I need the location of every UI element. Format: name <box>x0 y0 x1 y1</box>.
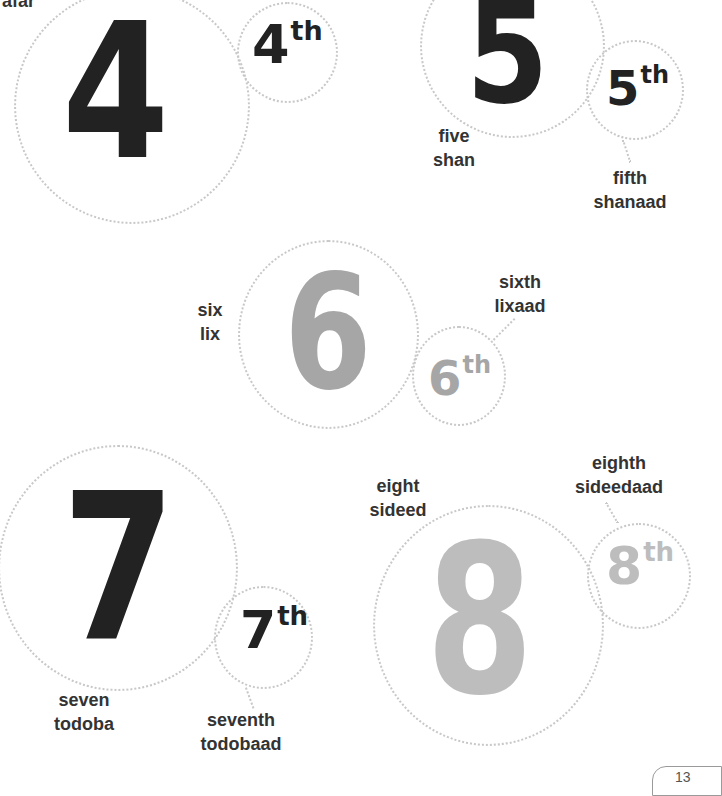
label-five: five shan <box>424 124 484 172</box>
label-eighth: eighth sideedaad <box>566 451 672 499</box>
label-sixth: sixth lixaad <box>488 270 552 318</box>
connector-seventh <box>245 687 254 708</box>
numeral-four: 4 <box>62 0 168 186</box>
connector-sixth <box>493 318 516 341</box>
ordinal-seventh-suffix: th <box>277 601 308 631</box>
numeral-eight: 8 <box>426 518 532 724</box>
ordinal-fifth-digit: 5 <box>606 60 639 116</box>
ordinal-fifth: 5th <box>606 64 669 112</box>
ordinal-eighth-digit: 8 <box>606 536 642 596</box>
ordinal-sixth-digit: 6 <box>428 350 461 406</box>
label-eight: eight sideed <box>362 474 434 522</box>
ordinal-fourth-digit: 4 <box>252 13 290 76</box>
numeral-seven: 7 <box>62 466 174 670</box>
ordinal-eighth: 8th <box>606 540 674 592</box>
label-eight-somali: sideed <box>362 498 434 522</box>
ordinal-seventh: 7th <box>240 604 308 656</box>
numeral-six: 6 <box>284 254 370 412</box>
label-seventh-english: seventh <box>193 708 289 732</box>
label-seven: seven todoba <box>46 688 122 736</box>
page-number-tab: 13 <box>652 766 722 796</box>
label-afar-somali: afar <box>2 0 35 13</box>
page-number: 13 <box>675 769 691 785</box>
label-six: six lix <box>188 298 232 346</box>
ordinal-sixth-suffix: th <box>462 351 491 379</box>
label-five-english: five <box>424 124 484 148</box>
ordinal-eighth-suffix: th <box>643 537 674 567</box>
connector-fifth <box>622 139 631 162</box>
label-eight-english: eight <box>362 474 434 498</box>
label-sixth-somali: lixaad <box>488 294 552 318</box>
ordinal-sixth: 6th <box>428 354 491 402</box>
label-six-somali: lix <box>188 322 232 346</box>
label-sixth-english: sixth <box>488 270 552 294</box>
label-seven-somali: todoba <box>46 712 122 736</box>
label-seventh-somali: todobaad <box>193 732 289 756</box>
label-fifth-english: fifth <box>580 166 680 190</box>
label-six-english: six <box>188 298 232 322</box>
ordinal-fourth-suffix: th <box>291 15 323 46</box>
label-five-somali: shan <box>424 148 484 172</box>
label-afar: afar <box>2 0 35 13</box>
label-fifth-somali: shanaad <box>580 190 680 214</box>
label-seventh: seventh todobaad <box>193 708 289 756</box>
numeral-five: 5 <box>466 0 547 124</box>
label-eighth-english: eighth <box>566 451 672 475</box>
ordinal-seventh-digit: 7 <box>240 600 276 660</box>
connector-eighth <box>605 502 619 524</box>
label-fifth: fifth shanaad <box>580 166 680 214</box>
ordinal-fourth: 4th <box>252 18 323 72</box>
label-seven-english: seven <box>46 688 122 712</box>
ordinal-fifth-suffix: th <box>640 61 669 89</box>
label-eighth-somali: sideedaad <box>566 475 672 499</box>
